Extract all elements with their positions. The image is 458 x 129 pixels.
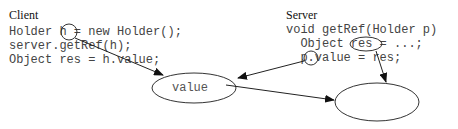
- res-variable-circle: [350, 37, 382, 51]
- res-to-result-arrow: [376, 51, 386, 82]
- h-to-holder-arrow: [75, 38, 163, 75]
- holder-object-node: [152, 73, 236, 103]
- p-to-holder-arrow: [238, 61, 304, 78]
- h-variable-circle: [61, 24, 77, 40]
- reference-diagram: [0, 0, 458, 129]
- value-to-result-arrow: [226, 85, 334, 100]
- result-object-node: [335, 83, 419, 121]
- p-variable-circle: [304, 51, 318, 65]
